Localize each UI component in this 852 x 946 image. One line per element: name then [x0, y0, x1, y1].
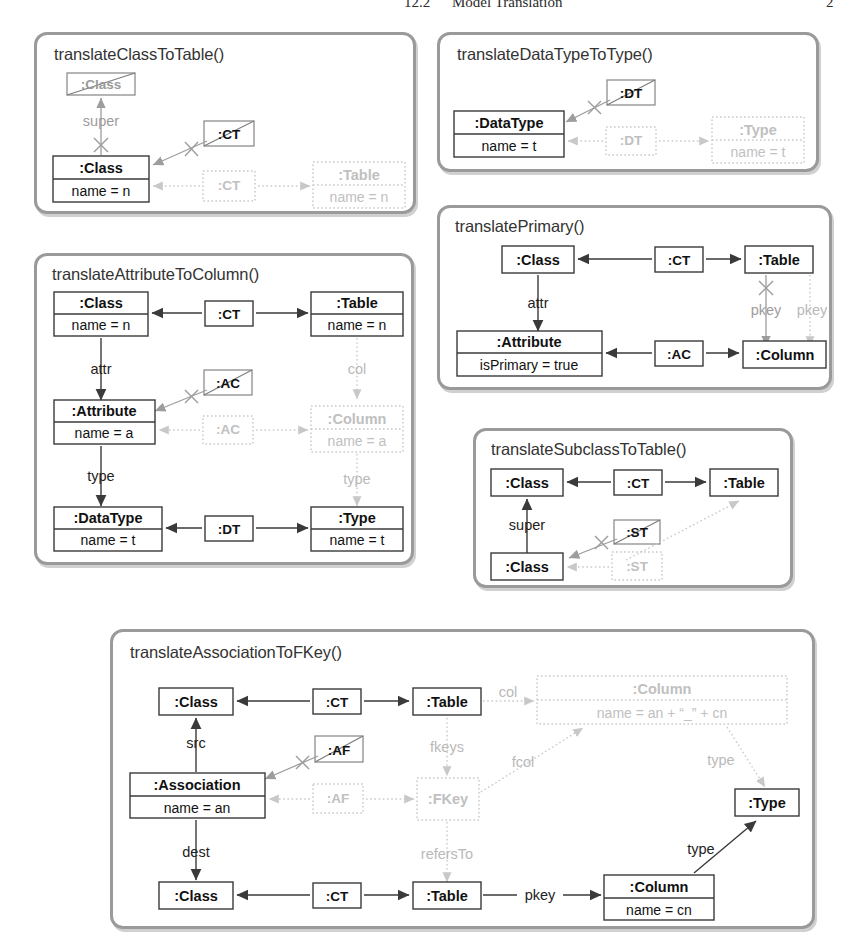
- node-label: :Type: [338, 510, 376, 526]
- edge-type-context: type: [87, 446, 114, 506]
- node-dt-created: :DT: [606, 127, 656, 155]
- node-label: :Table: [426, 694, 468, 710]
- node-datatype-context: :DataType name = t: [54, 507, 162, 551]
- node-label: :CT: [326, 695, 349, 710]
- node-attr: name = an: [164, 800, 231, 816]
- edge-label: super: [509, 517, 545, 533]
- panel-6-canvas: :Class :CT :Table col :Column name = an …: [113, 632, 818, 932]
- node-column-pk-context: :Column name = cn: [604, 875, 714, 920]
- panel-translate-primary: translatePrimary() :Class :CT :Table att…: [437, 205, 832, 390]
- node-label: :Class: [505, 475, 549, 491]
- node-ct-top-context: :CT: [313, 689, 361, 714]
- node-label: :Attribute: [71, 403, 136, 419]
- node-label: :FKey: [428, 791, 468, 807]
- edge-pkey-created: pkey: [797, 275, 828, 346]
- node-label: :Association: [153, 777, 240, 793]
- edge-label: col: [348, 361, 367, 377]
- node-label: :Class: [516, 252, 560, 268]
- node-attr: name = a: [75, 425, 134, 441]
- edge-pkey-context: pkey: [483, 887, 601, 903]
- node-attr: isPrimary = true: [480, 357, 579, 373]
- node-attr: name = cn: [626, 902, 692, 918]
- edge-pkey-nac: pkey: [751, 275, 782, 346]
- edge-label: fkeys: [430, 739, 464, 755]
- node-class-context: :Class: [502, 246, 574, 273]
- panel-4-canvas: :Class :CT :Table attr pkey: [440, 208, 835, 393]
- node-label: :Table: [336, 295, 378, 311]
- node-label: :Column: [633, 681, 692, 697]
- node-label: :CT: [218, 178, 241, 193]
- panel-5-canvas: :Class :CT :Table super :ST: [476, 431, 796, 591]
- node-label: :Type: [739, 122, 777, 138]
- node-label: :ST: [626, 525, 649, 540]
- edge-label: type: [343, 471, 370, 487]
- edge-super-nac: super: [83, 98, 119, 155]
- node-ct-context: :CT: [614, 470, 662, 495]
- node-st-created: :ST: [612, 552, 662, 580]
- node-attr: name = an + “_” + cn: [597, 705, 727, 721]
- panel-translate-datatype-to-type: translateDataTypeToType() :DT :DataType …: [437, 32, 819, 172]
- edge-st-nac: [569, 536, 617, 558]
- node-label: :DT: [620, 86, 643, 101]
- node-table-context: :Table: [745, 246, 813, 273]
- edge-label: col: [499, 684, 518, 700]
- edge-fkeys-created: fkeys: [430, 718, 464, 776]
- node-attr: name = n: [328, 317, 387, 333]
- node-st-nac: :ST: [614, 520, 660, 544]
- edge-refersto-created: refersTo: [421, 822, 473, 882]
- node-label: :CT: [218, 127, 241, 142]
- node-class-src-context: :Class: [159, 688, 233, 715]
- edge-label: attr: [528, 295, 549, 311]
- node-label: :AC: [216, 376, 240, 391]
- node-type-created: :Type name = t: [712, 117, 804, 163]
- edge-label: type: [707, 752, 734, 768]
- node-association-context: :Association name = an: [130, 773, 265, 818]
- node-label: :CT: [668, 253, 691, 268]
- node-table-top-context: :Table: [413, 688, 481, 715]
- node-af-created: :AF: [313, 784, 363, 813]
- header-section-number: 12.2: [404, 0, 430, 11]
- node-ac-context: :AC: [655, 341, 703, 366]
- node-class-dest-context: :Class: [159, 882, 233, 909]
- node-label: :AF: [328, 743, 351, 758]
- node-attr: name = a: [328, 433, 387, 449]
- node-ct-nac: :CT: [204, 121, 254, 146]
- node-attr: name = n: [330, 189, 389, 205]
- panel-2-canvas: :DT :DataType name = t :DT :Type name = …: [440, 35, 822, 175]
- edge-dt-nac: [566, 100, 610, 122]
- node-class-context: :Class name = n: [54, 292, 148, 336]
- node-fkey-created: :FKey: [417, 778, 479, 820]
- node-label: :AC: [667, 347, 691, 362]
- node-ac-created: :AC: [203, 416, 253, 444]
- node-table-created: :Table name = n: [313, 162, 405, 208]
- node-label: :Table: [338, 167, 380, 183]
- node-label: :DataType: [474, 115, 543, 131]
- node-type-context: :Type: [735, 789, 799, 816]
- node-dt-context: :DT: [205, 516, 253, 541]
- node-attr: name = t: [731, 144, 786, 160]
- edge-label: pkey: [797, 302, 828, 318]
- edge-ct-nac: [153, 141, 207, 165]
- panel-translate-association-to-fkey: translateAssociationToFKey() :Class :CT …: [110, 629, 815, 929]
- node-label: :Table: [758, 252, 800, 268]
- node-label: :Class: [79, 160, 123, 176]
- page-header: 12.2 Model Translation 2: [0, 0, 852, 14]
- node-ct-context: :CT: [205, 301, 253, 326]
- edge-dest-context: dest: [182, 820, 209, 880]
- edge-ac-nac: [155, 390, 207, 411]
- node-attr: name = t: [81, 532, 136, 548]
- node-label: :CT: [326, 889, 349, 904]
- panel-translate-subclass-to-table: translateSubclassToTable() :Class :CT :T…: [473, 428, 793, 588]
- node-label: :CT: [218, 307, 241, 322]
- edge-label: type: [87, 468, 114, 484]
- edge-label: pkey: [751, 302, 782, 318]
- edge-attr: attr: [91, 338, 112, 400]
- node-label: :DT: [620, 133, 643, 148]
- node-label: :Class: [174, 694, 218, 710]
- node-ct-context: :CT: [655, 247, 703, 272]
- panel-3-canvas: :Class name = n :CT :Table name = n attr: [37, 256, 417, 568]
- node-column-fk-created: :Column name = an + “_” + cn: [537, 676, 787, 724]
- edge-fcol-created: fcol: [481, 728, 583, 792]
- node-label: :AF: [327, 791, 350, 806]
- node-dt-nac: :DT: [607, 80, 655, 105]
